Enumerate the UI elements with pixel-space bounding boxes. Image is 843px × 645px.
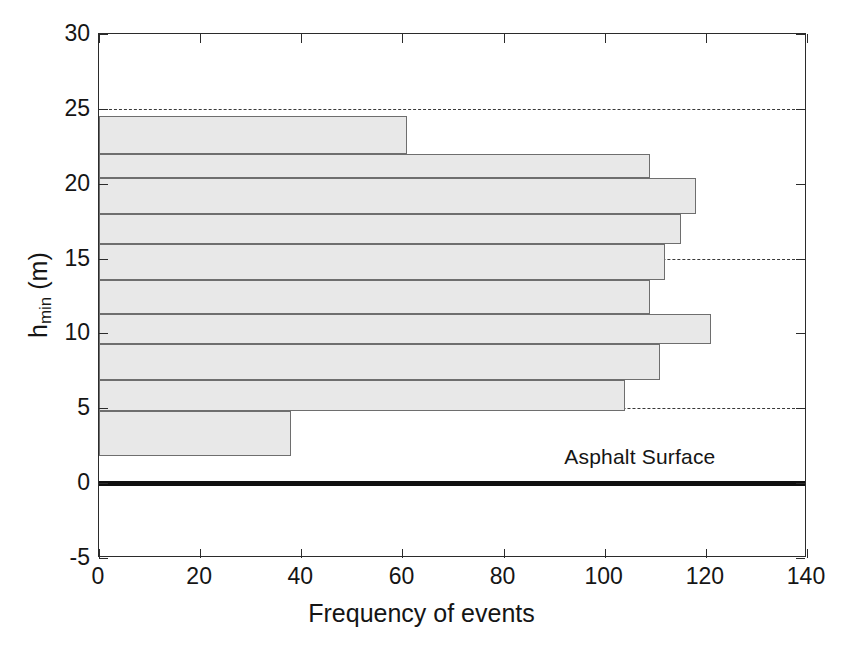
y-axis-label: hmin (m) — [24, 252, 56, 338]
x-tick-label: 20 — [186, 563, 212, 590]
y-tick-label: 5 — [77, 394, 90, 421]
x-tick-label: 120 — [686, 563, 724, 590]
x-tick-label: 0 — [92, 563, 105, 590]
y-axis-tick — [99, 34, 108, 35]
y-axis-tick-right — [796, 109, 805, 110]
x-axis-tick-top — [807, 34, 808, 43]
x-axis-tick-top — [99, 34, 100, 43]
y-tick-label: -5 — [70, 544, 90, 571]
x-axis-tick-top — [504, 34, 505, 43]
x-axis-tick-top — [402, 34, 403, 43]
x-tick-label: 140 — [787, 563, 825, 590]
x-axis-tick-top — [605, 34, 606, 43]
y-axis-label-main: h — [24, 324, 52, 338]
y-axis-label-unit: (m) — [24, 252, 52, 296]
plot-area: Asphalt Surface — [98, 33, 806, 557]
asphalt-surface-label: Asphalt Surface — [564, 445, 715, 469]
x-axis-tick — [301, 549, 302, 558]
y-axis-tick-right — [796, 259, 805, 260]
x-tick-label: 60 — [389, 563, 415, 590]
x-axis-tick — [200, 549, 201, 558]
x-axis-tick — [99, 549, 100, 558]
y-axis-tick-right — [796, 483, 805, 484]
y-tick-label: 0 — [77, 469, 90, 496]
asphalt-surface-line — [99, 481, 805, 486]
y-axis-tick — [99, 109, 108, 110]
x-tick-label: 40 — [287, 563, 313, 590]
surface-layer: Asphalt Surface — [99, 34, 805, 556]
y-axis-tick — [99, 259, 108, 260]
y-axis-tick-right — [796, 34, 805, 35]
y-axis-tick — [99, 558, 108, 559]
y-tick-label: 30 — [64, 20, 90, 47]
x-axis-tick — [504, 549, 505, 558]
chart-figure: Asphalt Surface 020406080100120140-50510… — [0, 0, 843, 645]
x-axis-tick-top — [301, 34, 302, 43]
y-axis-tick — [99, 333, 108, 334]
y-axis-tick — [99, 408, 108, 409]
x-axis-tick — [807, 549, 808, 558]
x-axis-tick — [402, 549, 403, 558]
x-axis-tick-top — [706, 34, 707, 43]
x-axis-tick-top — [200, 34, 201, 43]
x-axis-label: Frequency of events — [0, 599, 843, 628]
y-axis-tick — [99, 483, 108, 484]
x-tick-label: 100 — [585, 563, 623, 590]
y-axis-tick-right — [796, 333, 805, 334]
x-axis-tick — [706, 549, 707, 558]
y-tick-label: 15 — [64, 244, 90, 271]
y-axis-tick — [99, 184, 108, 185]
y-tick-label: 20 — [64, 169, 90, 196]
y-axis-tick-right — [796, 558, 805, 559]
x-axis-tick — [605, 549, 606, 558]
y-tick-label: 25 — [64, 94, 90, 121]
x-tick-label: 80 — [490, 563, 516, 590]
y-axis-tick-right — [796, 184, 805, 185]
y-tick-label: 10 — [64, 319, 90, 346]
y-axis-tick-right — [796, 408, 805, 409]
y-axis-label-sub: min — [36, 297, 55, 324]
